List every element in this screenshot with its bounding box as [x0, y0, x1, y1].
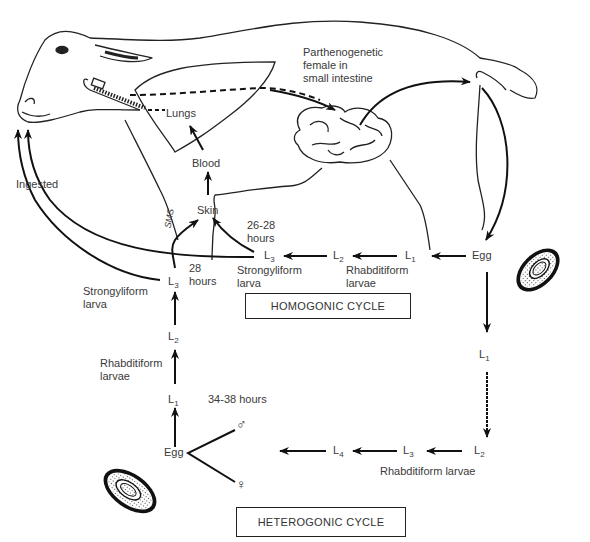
egg-illustration-left — [96, 460, 165, 522]
heterogonic-time-label: 28 hours — [189, 262, 217, 288]
adult-time-label: 34-38 hours — [208, 393, 267, 406]
female-symbol: ♀ — [236, 478, 247, 491]
heterogonic-l3: L3 — [403, 444, 414, 459]
heterogonic-rhabditiform-label: Rhabditiform larvae — [380, 465, 475, 478]
label-ingested: Ingested — [16, 178, 58, 191]
heterogonic-down-l1: L1 — [479, 348, 490, 363]
homogonic-l3: L3 — [264, 249, 275, 264]
homogonic-egg: Egg — [472, 249, 492, 262]
label-skin: Skin — [197, 204, 218, 217]
homogonic-time-label: 26-28 hours — [247, 219, 275, 245]
heterogonic-egg: Egg — [164, 446, 184, 459]
heterogonic-rhabditiform-up-label: Rhabditiform larvae — [100, 357, 162, 383]
heterogonic-strongyliform-up-label: Strongyliform larva — [83, 285, 148, 311]
homogonic-cycle-box: HOMOGONIC CYCLE — [245, 293, 411, 319]
small-intestine-illustration — [294, 106, 391, 163]
egg-illustration-right — [508, 240, 567, 299]
heterogonic-up-l2: L2 — [168, 330, 179, 345]
homogonic-strongyliform-label: Strongyliform larva — [237, 264, 302, 290]
label-blood: Blood — [192, 157, 220, 170]
homogonic-rhabditiform-label: Rhabditiform larvae — [346, 264, 408, 290]
heterogonic-l4: L4 — [333, 444, 344, 459]
lungs-illustration — [135, 62, 275, 152]
heterogonic-up-l3: L3 — [168, 275, 179, 290]
male-symbol: ♂ — [236, 418, 247, 431]
homogonic-l1: L1 — [405, 249, 416, 264]
label-lungs: Lungs — [166, 107, 196, 120]
label-parthenogenetic-female: Parthenogenetic female in small intestin… — [303, 46, 383, 85]
heterogonic-cycle-box: HETEROGONIC CYCLE — [236, 507, 406, 537]
sheep-illustration — [18, 21, 537, 260]
homogonic-l2: L2 — [333, 249, 344, 264]
heterogonic-up-l1: L1 — [168, 393, 179, 408]
heterogonic-l2: L2 — [474, 444, 485, 459]
